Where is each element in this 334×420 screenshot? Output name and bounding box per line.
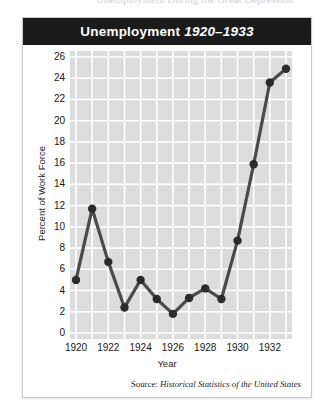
y-tick-label: 18	[54, 137, 65, 147]
y-tick-label: 12	[54, 201, 65, 211]
source-title: Historical Statistics of the United Stat…	[160, 379, 301, 389]
data-point-marker	[217, 295, 225, 303]
vertical-gridlines	[76, 51, 286, 339]
data-point-marker	[136, 276, 144, 284]
data-point-marker	[282, 64, 290, 72]
x-tick-label: 1928	[194, 342, 216, 353]
data-point-marker	[169, 310, 177, 318]
plot-area	[70, 51, 292, 339]
unemployment-series-markers	[72, 64, 290, 318]
x-tick-label: 1924	[129, 342, 151, 353]
y-tick-label: 14	[54, 179, 65, 189]
y-tick-label: 4	[59, 286, 65, 296]
y-tick-label: 22	[54, 94, 65, 104]
line-chart-svg	[70, 51, 292, 339]
data-point-marker	[153, 295, 161, 303]
x-tick-label: 1922	[97, 342, 119, 353]
data-point-marker	[266, 78, 274, 86]
x-axis-title: Year	[23, 358, 311, 369]
source-label: Source:	[131, 379, 158, 389]
horizontal-gridlines	[70, 57, 292, 333]
figure-screenshot: Unemployment During the Great Depression…	[0, 0, 334, 420]
data-point-marker	[72, 276, 80, 284]
y-tick-label: 2	[59, 307, 65, 317]
y-tick-label: 0	[59, 328, 65, 338]
y-tick-label: 10	[54, 222, 65, 232]
chart-title: Unemployment1920–1933	[80, 24, 253, 39]
chart-title-bar: Unemployment1920–1933	[23, 18, 311, 45]
chart-card: Unemployment1920–1933 Percent of Work Fo…	[22, 17, 312, 398]
y-tick-label: 8	[59, 243, 65, 253]
x-tick-label: 1932	[259, 342, 281, 353]
y-tick-label: 16	[54, 158, 65, 168]
chart-title-main: Unemployment	[80, 24, 180, 39]
data-point-marker	[120, 303, 128, 311]
x-tick-label: 1920	[65, 342, 87, 353]
x-axis-tick-labels: 1920192219241926192819301932	[70, 342, 292, 356]
chart-title-years: 1920–1933	[184, 24, 253, 39]
y-tick-label: 6	[59, 264, 65, 274]
data-point-marker	[201, 284, 209, 292]
y-tick-label: 24	[54, 73, 65, 83]
source-note: Source: Historical Statistics of the Uni…	[23, 379, 301, 389]
data-point-marker	[233, 236, 241, 244]
x-tick-label: 1930	[226, 342, 248, 353]
y-axis-tick-labels: 26242220181614121086420	[43, 51, 65, 339]
data-point-marker	[249, 160, 257, 168]
unemployment-series-line	[76, 69, 286, 314]
y-tick-label: 20	[54, 116, 65, 126]
data-point-marker	[185, 294, 193, 302]
x-tick-label: 1926	[162, 342, 184, 353]
page-top-caption-clipped: Unemployment During the Great Depression	[0, 0, 334, 14]
data-point-marker	[88, 205, 96, 213]
data-point-marker	[104, 258, 112, 266]
top-caption-text: Unemployment During the Great Depression	[96, 0, 294, 5]
y-tick-label: 26	[54, 52, 65, 62]
